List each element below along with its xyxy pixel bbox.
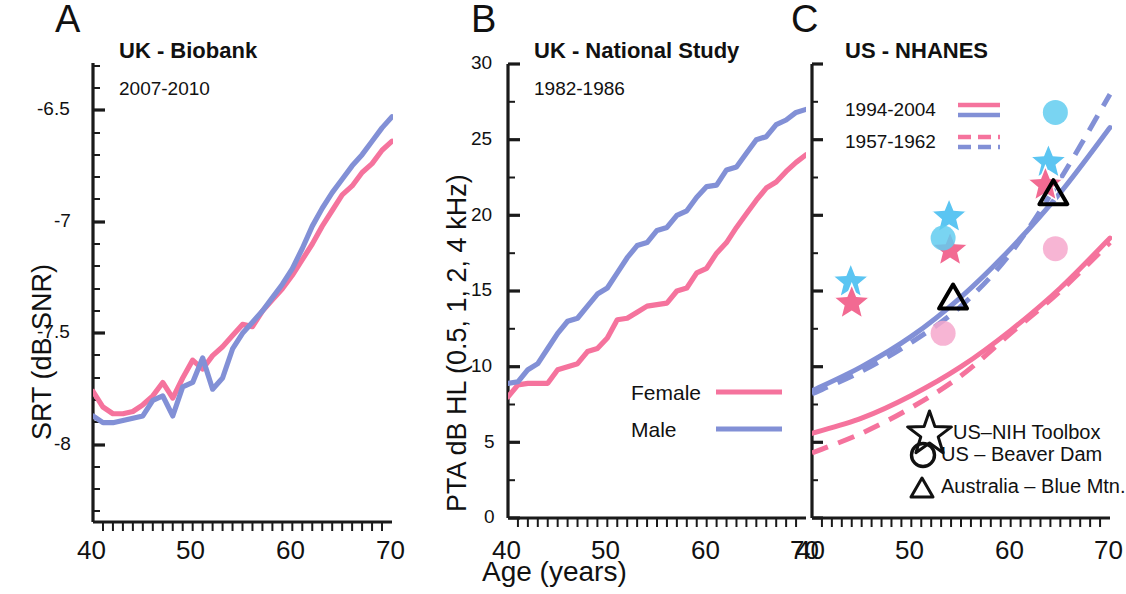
panel-b-ytick-20: 20 bbox=[471, 204, 492, 226]
panel-c-legend-period-1994: 1994-2004 bbox=[845, 99, 936, 121]
panel-b-letter: B bbox=[471, 0, 496, 41]
panel-b-ytick-15: 15 bbox=[471, 279, 492, 301]
panel-c-title: US - NHANES bbox=[845, 38, 988, 64]
panel-c-legend-nih-toolbox-label: US–NIH Toolbox bbox=[953, 421, 1100, 444]
panel-b-title: UK - National Study bbox=[534, 38, 739, 64]
marker-circle bbox=[931, 321, 956, 346]
panel-b-male-line bbox=[508, 109, 806, 383]
panel-c-xtick-50: 50 bbox=[895, 535, 924, 566]
panel-a-ytick--7: -7 bbox=[54, 210, 71, 232]
panel-c-female-1994-line bbox=[812, 238, 1110, 433]
panel-a-xtick-40: 40 bbox=[77, 535, 106, 566]
marker-star bbox=[834, 284, 870, 318]
panel-c-xtick-70: 70 bbox=[1094, 535, 1123, 566]
panel-c-legend-blue-mtn-label: Australia – Blue Mtn. bbox=[941, 475, 1126, 498]
panel-a-plot-area bbox=[93, 117, 392, 423]
x-axis-label: Age (years) bbox=[482, 556, 627, 588]
panel-b-y-major-ticks bbox=[508, 64, 520, 518]
panel-a-title: UK - Biobank bbox=[119, 38, 257, 64]
legend-triangle-icon bbox=[911, 478, 933, 497]
panel-a-letter: A bbox=[55, 0, 80, 41]
panel-c-legend-beaver-dam-label: US – Beaver Dam bbox=[941, 443, 1102, 466]
panel-a-xtick-70: 70 bbox=[376, 535, 405, 566]
panel-b-y-axis-label: PTA dB HL (0.5, 1, 2, 4 kHz) bbox=[442, 174, 473, 512]
panel-b-female-line bbox=[508, 155, 806, 397]
panel-b-ytick-25: 25 bbox=[471, 128, 492, 150]
panel-a bbox=[93, 63, 392, 531]
panel-a-xtick-60: 60 bbox=[276, 535, 305, 566]
panel-a-xtick-50: 50 bbox=[176, 535, 205, 566]
panel-a-ytick--6.5: -6.5 bbox=[37, 98, 70, 120]
panel-c-legend-period-1957: 1957-1962 bbox=[845, 131, 936, 153]
panel-a-male-line bbox=[93, 117, 392, 423]
panel-b bbox=[508, 64, 806, 527]
panel-b-legend-male-label: Male bbox=[631, 418, 677, 442]
panel-b-plot-area bbox=[508, 109, 806, 397]
marker-circle bbox=[1043, 236, 1068, 261]
panel-a-y-axis-label: SRT (dB SNR) bbox=[27, 264, 58, 440]
panel-b-ytick-30: 30 bbox=[471, 52, 492, 74]
panel-b-subtitle: 1982-1986 bbox=[534, 78, 625, 100]
panel-c-letter: C bbox=[791, 0, 818, 41]
panel-c-xtick-40: 40 bbox=[796, 535, 825, 566]
panel-b-ytick-5: 5 bbox=[484, 431, 495, 453]
panel-b-ytick-0: 0 bbox=[484, 506, 495, 528]
marker-circle bbox=[931, 226, 956, 251]
panel-b-xtick-60: 60 bbox=[691, 535, 720, 566]
panel-a-female-line bbox=[93, 141, 392, 413]
panel-c-period-legend-swatches bbox=[958, 105, 1000, 147]
marker-circle bbox=[1043, 100, 1068, 125]
panel-a-subtitle: 2007-2010 bbox=[119, 78, 210, 100]
panel-c-xtick-60: 60 bbox=[995, 535, 1024, 566]
panel-b-ytick-10: 10 bbox=[471, 355, 492, 377]
panel-b-legend-female-label: Female bbox=[631, 381, 701, 405]
